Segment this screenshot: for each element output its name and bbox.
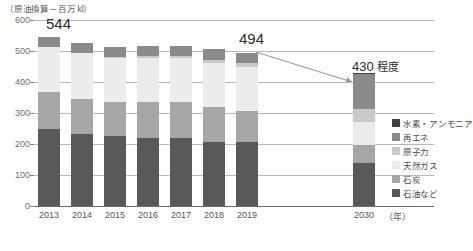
legend-swatch-icon — [392, 147, 400, 155]
bar-segment — [170, 58, 192, 101]
bar-2018 — [203, 49, 225, 206]
x-axis-label-2019: 2019 — [227, 210, 267, 220]
legend-label: 原子力 — [403, 145, 429, 157]
bar-segment — [353, 74, 375, 108]
bar-segment — [203, 49, 225, 60]
callout-target-value: 430 — [352, 59, 374, 74]
y-axis-tick-label: 500 — [15, 46, 30, 56]
legend-label: 再エネ — [403, 131, 429, 143]
legend-swatch-icon — [392, 133, 400, 141]
bar-segment — [137, 102, 159, 138]
bar-segment — [137, 58, 159, 102]
chart-legend: 水素・アンモニア再エネ原子力天然ガス石炭石油など — [392, 117, 473, 199]
bar-segment — [203, 107, 225, 142]
plot-area: 0100200300400500600 — [34, 20, 434, 206]
y-axis-tick-mark — [30, 206, 34, 207]
bar-segment — [38, 92, 60, 129]
callout-target-total: 430 程度 — [352, 58, 399, 74]
bar-segment — [38, 37, 60, 47]
bar-segment — [236, 142, 258, 206]
bar-segment — [353, 122, 375, 145]
y-axis-tick-mark — [30, 20, 34, 21]
bar-segment — [236, 111, 258, 143]
bar-segment — [236, 53, 258, 64]
y-axis-tick-label: 200 — [15, 139, 30, 149]
legend-label: 水素・アンモニア — [403, 117, 473, 129]
bar-2014 — [71, 43, 93, 206]
gridline — [34, 51, 434, 52]
bar-segment — [71, 134, 93, 206]
bar-segment — [104, 102, 126, 137]
legend-swatch-icon — [392, 189, 400, 197]
bar-2017 — [170, 46, 192, 206]
callout-first-total: 544 — [46, 15, 71, 32]
bar-segment — [170, 46, 192, 56]
y-axis-tick-mark — [30, 113, 34, 114]
bar-2015 — [104, 47, 126, 206]
y-axis-tick-label: 400 — [15, 77, 30, 87]
bar-segment — [38, 47, 60, 92]
bar-segment — [236, 67, 258, 110]
bar-2030 — [353, 73, 375, 206]
bar-segment — [104, 136, 126, 206]
bar-2019 — [236, 53, 258, 206]
legend-item-1[interactable]: 再エネ — [392, 131, 473, 143]
legend-item-0[interactable]: 水素・アンモニア — [392, 117, 473, 129]
gridline — [34, 20, 434, 21]
legend-item-4[interactable]: 石炭 — [392, 173, 473, 185]
bar-segment — [203, 63, 225, 107]
bar-segment — [353, 109, 375, 122]
bar-segment — [104, 47, 126, 57]
legend-item-2[interactable]: 原子力 — [392, 145, 473, 157]
bar-segment — [71, 99, 93, 134]
bar-segment — [203, 142, 225, 206]
y-axis-tick-label: 300 — [15, 108, 30, 118]
callout-latest-total: 494 — [239, 30, 264, 47]
x-axis-unit: （年） — [384, 210, 411, 223]
legend-label: 天然ガス — [403, 159, 438, 171]
y-axis-tick-label: 600 — [15, 15, 30, 25]
callout-target-suffix: 程度 — [374, 61, 399, 73]
y-axis-tick-label: 100 — [15, 170, 30, 180]
legend-item-3[interactable]: 天然ガス — [392, 159, 473, 171]
bar-segment — [353, 145, 375, 163]
bar-2013 — [38, 37, 60, 206]
legend-swatch-icon — [392, 161, 400, 169]
y-axis-tick-mark — [30, 144, 34, 145]
x-axis-label-2030: 2030 — [344, 210, 384, 220]
legend-swatch-icon — [392, 175, 400, 183]
y-axis-tick-mark — [30, 51, 34, 52]
bar-2016 — [137, 46, 159, 206]
bar-segment — [137, 138, 159, 206]
y-axis-tick-mark — [30, 175, 34, 176]
bar-segment — [38, 129, 60, 206]
bar-segment — [71, 53, 93, 99]
bar-segment — [137, 46, 159, 56]
bar-segment — [71, 43, 93, 53]
legend-label: 石油など — [403, 187, 438, 199]
bar-segment — [104, 58, 126, 102]
bar-segment — [170, 138, 192, 206]
bar-segment — [170, 102, 192, 138]
y-axis-title: （原油換算－百万 kl） — [5, 2, 92, 14]
y-axis-tick-mark — [30, 82, 34, 83]
bar-segment — [353, 163, 375, 206]
legend-swatch-icon — [392, 119, 400, 127]
legend-label: 石炭 — [403, 173, 420, 185]
legend-item-5[interactable]: 石油など — [392, 187, 473, 199]
